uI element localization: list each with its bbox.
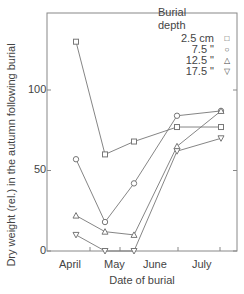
- y-tick-label-100: 100: [28, 83, 46, 95]
- legend-title-line2: depth: [158, 19, 232, 32]
- square-marker-icon: [219, 125, 224, 130]
- triangle-down-marker-icon: ▽: [222, 66, 232, 77]
- x-tick-label-april: April: [59, 258, 81, 270]
- square-marker-icon: [74, 39, 79, 44]
- y-axis-label: Dry weight (rel.) in the autumn followin…: [4, 40, 18, 270]
- y-tick-label-0: 0: [40, 244, 46, 256]
- x-tick-label-june: June: [143, 258, 167, 270]
- legend-title-line1: Burial: [158, 6, 232, 19]
- legend-item-17-5cm: 17.5 " ▽: [152, 66, 232, 77]
- x-axis-label: Date of burial: [47, 274, 237, 286]
- circle-marker-icon: [174, 113, 179, 118]
- circle-marker-icon: [73, 157, 78, 162]
- triangle-up-marker-icon: [73, 213, 79, 219]
- x-tick-label-may: May: [104, 258, 125, 270]
- square-marker-icon: [175, 125, 180, 130]
- circle-marker-icon: [131, 181, 136, 186]
- square-marker-icon: □: [222, 33, 232, 44]
- square-marker-icon: [103, 152, 108, 157]
- legend: Burial depth 2.5 cm □ 7.5 " ○ 12.5 " △ 1…: [152, 6, 232, 77]
- circle-marker-icon: [102, 219, 107, 224]
- triangle-down-marker-icon: [73, 232, 79, 238]
- series-line-175cm: [76, 138, 221, 251]
- x-tick-label-july: July: [192, 258, 212, 270]
- square-marker-icon: [132, 139, 137, 144]
- triangle-up-marker-icon: △: [222, 55, 232, 66]
- legend-label: 17.5 ": [186, 66, 214, 77]
- triangle-up-marker-icon: [102, 229, 108, 235]
- y-axis-label-text: Dry weight (rel.) in the autumn followin…: [5, 43, 17, 266]
- y-tick-label-50: 50: [34, 163, 46, 175]
- circle-marker-icon: ○: [222, 44, 232, 55]
